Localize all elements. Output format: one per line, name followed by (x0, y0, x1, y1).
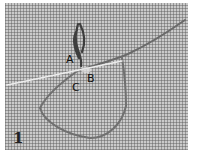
stitch-diagram (0, 0, 197, 158)
step-number: 1 (13, 131, 23, 146)
label-b: B (87, 73, 95, 84)
label-a: A (66, 54, 74, 65)
working-thread (80, 20, 185, 70)
thread-tuft (74, 24, 84, 66)
label-c: C (72, 82, 80, 93)
